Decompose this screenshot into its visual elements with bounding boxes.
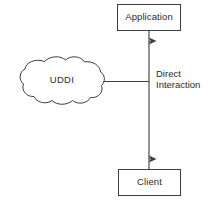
uddi-node-label: UDDI [20,74,104,85]
node-application[interactable]: Application [117,4,181,31]
direct-interaction-label-line-1: Direct [156,68,210,79]
application-node-label: Application [125,12,173,22]
client-node-label: Client [137,177,162,187]
diagram-canvas: UDDI Application Client Direct Interacti… [0,0,210,202]
direct-interaction-label-line-2: Interaction [156,79,210,90]
direct-interaction-edge-label: Direct Interaction [156,68,210,90]
node-client[interactable]: Client [118,169,181,196]
